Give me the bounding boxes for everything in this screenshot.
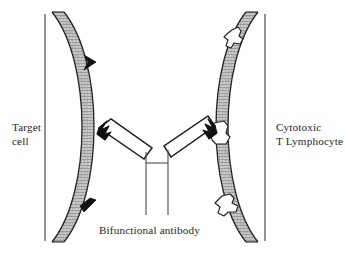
lymphocyte-label-line1: Cytotoxic (276, 121, 321, 133)
bifunctional-antibody-label: Bifunctional antibody (99, 224, 200, 236)
lymphocyte-label-line2: T Lymphocyte (276, 135, 343, 147)
bifunctional-antibody-diagram: Target cell Cytotoxic T Lymphocyte Bifun… (0, 0, 345, 254)
diagram-canvas: Target cell Cytotoxic T Lymphocyte Bifun… (0, 0, 345, 254)
target-cell-label-line2: cell (12, 135, 29, 147)
target-cell-label-line1: Target (12, 121, 42, 133)
